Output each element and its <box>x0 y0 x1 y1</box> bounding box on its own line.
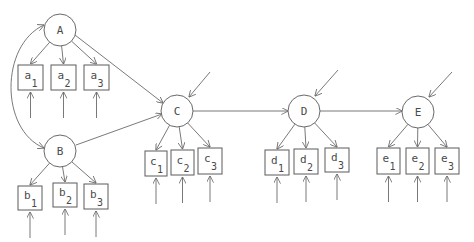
indicator-label: d <box>331 151 338 164</box>
indicator-node-e3: e3 <box>435 148 459 174</box>
indicator-node-b1: b1 <box>18 186 42 210</box>
path-diagram-canvas: ABCDEa1a2a3b1b2b3c1c2c3d1d2d3e1e2e3 <box>0 0 474 242</box>
latent-label: D <box>301 105 308 118</box>
indicator-label: b <box>90 188 97 201</box>
indicator-subscript: 3 <box>448 161 454 172</box>
loading-arrow-c1 <box>156 125 170 150</box>
indicator-subscript: 2 <box>184 163 190 174</box>
indicator-node-d2: d2 <box>294 149 318 174</box>
indicator-subscript: 2 <box>419 161 425 172</box>
indicator-node-b2: b2 <box>53 183 77 207</box>
indicator-node-a2: a2 <box>51 65 76 90</box>
indicator-subscript: 3 <box>97 197 103 208</box>
indicator-node-c3: c3 <box>198 148 222 174</box>
latent-label: A <box>57 24 64 37</box>
indicator-node-a3: a3 <box>84 65 109 90</box>
loading-arrow-a3 <box>72 41 97 64</box>
latent-node-a: A <box>44 14 76 46</box>
indicator-label: d <box>300 153 307 166</box>
loading-arrow-d3 <box>315 123 337 147</box>
loading-arrow-d1 <box>277 124 295 149</box>
indicator-subscript: 1 <box>278 163 284 174</box>
indicator-label: b <box>24 189 31 202</box>
disturbance-arrow-c <box>189 72 210 97</box>
path-diagram: ABCDEa1a2a3b1b2b3c1c2c3d1d2d3e1e2e3 <box>0 0 474 242</box>
indicator-node-c2: c2 <box>171 150 194 175</box>
indicator-label: a <box>25 69 32 82</box>
latent-node-d: D <box>288 95 320 127</box>
latent-node-c: C <box>161 95 193 127</box>
indicator-node-d1: d1 <box>265 150 289 175</box>
indicator-label: c <box>150 155 157 168</box>
latent-node-b: B <box>44 135 76 167</box>
indicator-subscript: 2 <box>65 78 71 89</box>
loading-arrow-b2 <box>63 167 66 182</box>
indicator-label: e <box>441 152 448 165</box>
indicator-subscript: 1 <box>157 164 163 175</box>
indicator-subscript: 3 <box>211 161 217 172</box>
indicator-label: c <box>204 152 211 165</box>
loading-arrow-c3 <box>188 123 210 147</box>
indicator-label: e <box>412 152 419 165</box>
indicator-node-d3: d3 <box>325 148 349 172</box>
loading-arrow-b3 <box>72 162 96 183</box>
nodes-layer: ABCDEa1a2a3b1b2b3c1c2c3d1d2d3e1e2e3 <box>18 14 459 210</box>
loading-arrow-d2 <box>305 127 306 148</box>
disturbance-arrow-d <box>315 70 338 96</box>
indicator-label: a <box>91 69 98 82</box>
indicator-subscript: 3 <box>98 78 104 89</box>
latent-label: B <box>57 145 64 158</box>
indicator-node-e1: e1 <box>377 148 400 174</box>
indicator-subscript: 3 <box>338 160 344 171</box>
latent-label: C <box>174 105 181 118</box>
loading-arrow-b1 <box>30 163 50 185</box>
indicator-subscript: 1 <box>390 161 396 172</box>
path-arrow-b-c <box>76 114 162 145</box>
indicator-label: e <box>383 152 390 165</box>
indicator-label: d <box>271 154 278 167</box>
indicator-node-a1: a1 <box>18 65 43 90</box>
indicator-label: b <box>59 186 66 199</box>
indicator-node-b3: b3 <box>84 184 108 209</box>
indicator-subscript: 2 <box>66 195 72 206</box>
indicator-node-c1: c1 <box>145 151 167 176</box>
indicator-label: a <box>58 69 65 82</box>
indicator-subscript: 1 <box>31 198 37 209</box>
indicator-node-e2: e2 <box>406 148 429 174</box>
loading-arrow-a2 <box>62 46 64 64</box>
indicator-subscript: 1 <box>32 78 38 89</box>
latent-node-e: E <box>402 96 434 128</box>
disturbance-arrow-e <box>429 72 452 97</box>
indicator-subscript: 2 <box>307 162 313 173</box>
loading-arrow-e3 <box>428 125 447 148</box>
loading-arrow-a1 <box>31 42 50 64</box>
latent-label: E <box>415 106 422 119</box>
loading-arrow-c2 <box>179 127 182 149</box>
loading-arrow-e1 <box>389 124 408 147</box>
indicator-label: c <box>177 154 184 167</box>
